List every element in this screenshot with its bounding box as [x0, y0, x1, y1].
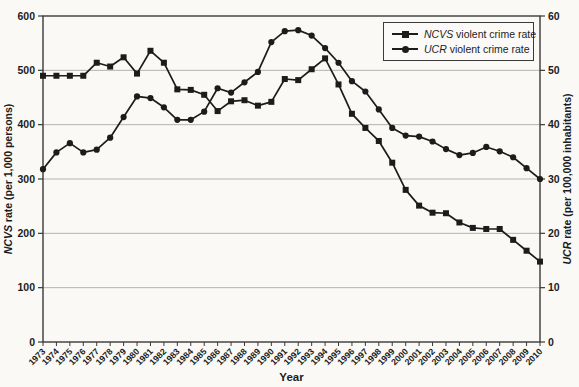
svg-text:60: 60 — [548, 10, 560, 22]
svg-text:50: 50 — [548, 64, 560, 76]
square-marker-icon — [392, 30, 418, 39]
svg-text:30: 30 — [548, 173, 560, 185]
svg-text:0: 0 — [29, 336, 35, 348]
svg-text:200: 200 — [17, 227, 35, 239]
legend: NCVS violent crime rate UCR violent crim… — [383, 22, 534, 61]
svg-text:UCR rate (per 100,000 inhabita: UCR rate (per 100,000 inhabitants) — [561, 94, 573, 265]
svg-text:10: 10 — [548, 281, 560, 293]
svg-text:Year: Year — [279, 371, 304, 383]
legend-label-ncvs: NCVS violent crime rate — [424, 28, 536, 40]
svg-text:0: 0 — [548, 336, 554, 348]
legend-item-ncvs: NCVS violent crime rate — [392, 28, 527, 40]
svg-text:40: 40 — [548, 118, 560, 130]
legend-item-ucr: UCR violent crime rate — [392, 43, 527, 55]
svg-text:300: 300 — [17, 173, 35, 185]
svg-text:500: 500 — [17, 64, 35, 76]
legend-label-ucr: UCR violent crime rate — [424, 43, 530, 55]
svg-text:600: 600 — [17, 10, 35, 22]
circle-marker-icon — [392, 45, 418, 54]
svg-text:20: 20 — [548, 227, 560, 239]
crime-rate-chart: 0100200300400500600010203040506019731974… — [0, 0, 579, 387]
svg-text:400: 400 — [17, 118, 35, 130]
svg-text:NCVS rate (per 1,000 persons): NCVS rate (per 1,000 persons) — [2, 104, 14, 255]
svg-text:100: 100 — [17, 281, 35, 293]
